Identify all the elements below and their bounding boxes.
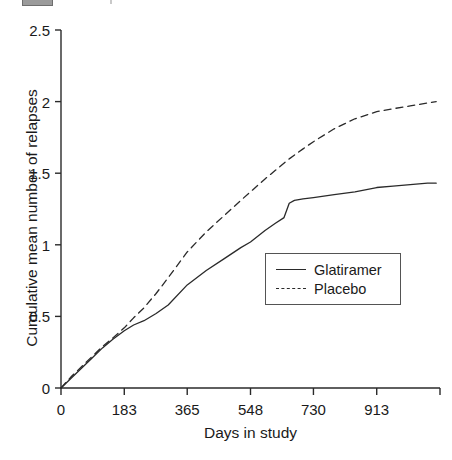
legend-dashed-line-icon [276,284,306,294]
x-tick-label: 548 [238,402,263,417]
y-tick-label: 0 [0,381,50,396]
legend-label-glatiramer: Glatiramer [314,262,382,278]
x-tick-label: 0 [57,402,65,417]
chart-legend: Glatiramer Placebo [265,253,401,305]
chart-canvas [0,0,452,460]
y-axis-title: Cumulative mean number of relapses [23,68,41,368]
legend-solid-line-icon [276,265,306,275]
x-tick-label: 365 [175,402,200,417]
series-line-placebo [61,102,436,388]
x-axis-ticks [61,388,440,395]
data-series [61,102,436,388]
x-tick-label: 730 [301,402,326,417]
legend-item-placebo: Placebo [276,279,400,298]
relapse-line-chart: 00.511.522.5 0183365548730913 Cumulative… [0,0,452,460]
legend-item-glatiramer: Glatiramer [276,260,400,279]
y-tick-label: 2.5 [0,23,50,38]
x-tick-label: 913 [364,402,389,417]
x-axis-title: Days in study [61,424,440,442]
legend-label-placebo: Placebo [314,281,366,297]
y-axis-ticks [55,30,61,388]
x-tick-label: 183 [112,402,137,417]
